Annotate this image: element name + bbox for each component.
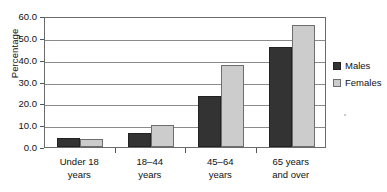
bar-males-0 xyxy=(57,138,80,147)
x-axis-category-label-line: years xyxy=(185,169,256,182)
x-axis-tick-labels: Under 18years18–44years45–64years65 year… xyxy=(44,156,326,190)
y-axis-tick-label: 20.0 xyxy=(19,99,38,109)
x-axis-tick-mark xyxy=(115,148,116,153)
plot-area xyxy=(44,17,326,148)
y-axis-tick-label: 30.0 xyxy=(19,78,38,88)
bar-group xyxy=(45,18,116,147)
y-axis-tick-label: 10.0 xyxy=(19,121,38,131)
y-axis-tick-labels: 0.010.020.030.040.050.060.0 xyxy=(0,0,41,192)
legend-item-males[interactable]: Males xyxy=(333,61,387,71)
bars-layer xyxy=(45,18,325,147)
artifact-speck xyxy=(344,114,346,116)
y-axis-tick-label: 60.0 xyxy=(19,12,38,22)
bar-females-0 xyxy=(80,139,103,147)
x-axis-category-label-line: Under 18 xyxy=(44,156,115,169)
x-axis-tick-mark xyxy=(256,148,257,153)
x-axis-category-label-line: 18–44 xyxy=(115,156,186,169)
legend-swatch-icon xyxy=(333,62,341,70)
x-axis-category-label-line: and over xyxy=(256,169,327,182)
bar-females-3 xyxy=(292,25,315,147)
legend-swatch-icon xyxy=(333,79,341,87)
x-axis-category-label: 65 yearsand over xyxy=(256,156,327,181)
x-axis-category-label: 45–64years xyxy=(185,156,256,181)
bar-females-1 xyxy=(151,125,174,147)
bar-males-3 xyxy=(269,47,292,147)
legend-label: Males xyxy=(345,61,370,71)
bar-males-1 xyxy=(128,133,151,147)
legend-label: Females xyxy=(345,78,381,88)
x-axis-tick-marks xyxy=(44,148,326,154)
x-axis-tick-mark xyxy=(185,148,186,153)
bar-group xyxy=(116,18,187,147)
chart-legend: MalesFemales xyxy=(333,61,387,95)
bar-chart: Percentage 0.010.020.030.040.050.060.0 U… xyxy=(0,0,387,192)
x-axis-category-label: Under 18years xyxy=(44,156,115,181)
bar-females-2 xyxy=(221,65,244,147)
y-axis-tick-label: 40.0 xyxy=(19,56,38,66)
x-axis-category-label-line: 45–64 xyxy=(185,156,256,169)
x-axis-category-label-line: years xyxy=(115,169,186,182)
legend-item-females[interactable]: Females xyxy=(333,78,387,88)
y-axis-tick-label: 50.0 xyxy=(19,34,38,44)
x-axis-category-label-line: years xyxy=(44,169,115,182)
x-axis-category-label: 18–44years xyxy=(115,156,186,181)
y-axis-tick-label: 0.0 xyxy=(24,143,37,153)
bar-males-2 xyxy=(198,96,221,147)
x-axis-category-label-line: 65 years xyxy=(256,156,327,169)
bar-group xyxy=(257,18,328,147)
bar-group xyxy=(186,18,257,147)
